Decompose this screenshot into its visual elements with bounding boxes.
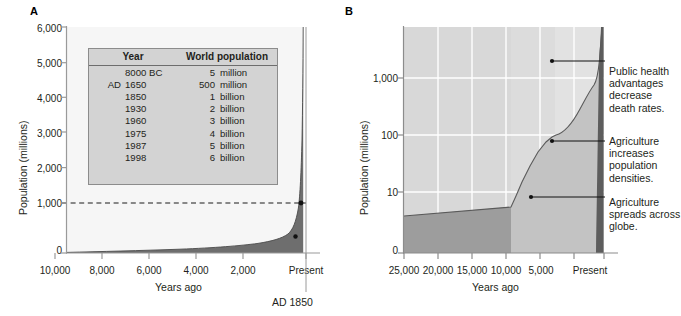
cell-value: 6 <box>177 151 218 163</box>
cell-era <box>89 103 123 115</box>
cell-unit: million <box>218 66 277 79</box>
cell-era: AD <box>89 78 123 90</box>
cell-era <box>89 127 123 139</box>
cell-era <box>89 90 123 102</box>
cell-unit: billion <box>218 115 277 127</box>
table-body: 8000 BC 5 million AD 1650 500 million 18… <box>89 66 277 164</box>
cell-era <box>89 151 123 163</box>
table-row: 8000 BC 5 million <box>89 66 277 79</box>
cell-era <box>89 66 123 79</box>
cell-unit: million <box>218 78 277 90</box>
cell-year: 1850 <box>123 90 177 102</box>
cell-unit: billion <box>218 103 277 115</box>
table-header-population: World population <box>177 49 277 66</box>
table-row: 1960 3 billion <box>89 115 277 127</box>
cell-year: 1998 <box>123 151 177 163</box>
cell-year: 1960 <box>123 115 177 127</box>
table-header-row: Year World population <box>89 49 277 66</box>
panel-a-marker-ad1650-dot <box>293 234 297 238</box>
cell-unit: billion <box>218 139 277 151</box>
table-row: 1987 5 billion <box>89 139 277 151</box>
cell-year: 8000 BC <box>123 66 177 79</box>
table-row: AD 1650 500 million <box>89 78 277 90</box>
cell-value: 4 <box>177 127 218 139</box>
panel-b-plot <box>340 0 678 316</box>
table-row: 1850 1 billion <box>89 90 277 102</box>
panel-a-population-table: Year World population 8000 BC 5 million … <box>88 48 278 185</box>
cell-value: 5 <box>177 66 218 79</box>
table-header-year: Year <box>89 49 177 66</box>
cell-unit: billion <box>218 127 277 139</box>
cell-unit: billion <box>218 151 277 163</box>
panel-a-x-tick-marks <box>55 253 306 259</box>
cell-year: 1650 <box>123 78 177 90</box>
cell-value: 3 <box>177 115 218 127</box>
cell-year: 1975 <box>123 127 177 139</box>
cell-year: 1930 <box>123 103 177 115</box>
table-row: 1998 6 billion <box>89 151 277 163</box>
table-row: 1975 4 billion <box>89 127 277 139</box>
population-table: Year World population 8000 BC 5 million … <box>89 49 277 164</box>
panel-b-x-tick-marks <box>404 253 604 259</box>
cell-era <box>89 115 123 127</box>
cell-value: 1 <box>177 90 218 102</box>
cell-era <box>89 139 123 151</box>
panel-a-marker-ad1850-dot <box>299 201 304 206</box>
table-row: 1930 2 billion <box>89 103 277 115</box>
cell-year: 1987 <box>123 139 177 151</box>
cell-unit: billion <box>218 90 277 102</box>
cell-value: 500 <box>177 78 218 90</box>
cell-value: 5 <box>177 139 218 151</box>
cell-value: 2 <box>177 103 218 115</box>
